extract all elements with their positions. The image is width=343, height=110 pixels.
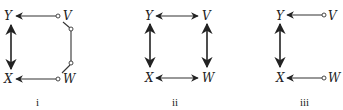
caption-i: i: [36, 96, 39, 108]
panel-ii: Y V X W ii: [144, 9, 216, 108]
caption-iii: iii: [300, 96, 309, 108]
node-x: X: [144, 71, 154, 85]
circle-mark: [56, 77, 60, 81]
circle-mark: [69, 61, 73, 65]
graph-diagram: Y V X W i Y V X W ii Y V X W: [0, 0, 343, 110]
node-v: V: [63, 9, 73, 23]
caption-ii: ii: [172, 96, 178, 108]
node-v: V: [202, 9, 212, 23]
node-x: X: [3, 72, 13, 86]
node-y: Y: [145, 9, 154, 23]
node-y: Y: [276, 9, 285, 23]
node-x: X: [275, 71, 285, 85]
circle-mark: [69, 27, 73, 31]
circle-mark: [322, 13, 326, 17]
circle-mark: [56, 14, 60, 18]
panel-i: Y V X W i: [3, 9, 77, 108]
node-w: W: [63, 72, 77, 86]
node-w: W: [328, 71, 342, 85]
circle-mark: [322, 76, 326, 80]
node-y: Y: [4, 9, 13, 23]
node-v: V: [328, 9, 338, 23]
node-w: W: [202, 71, 216, 85]
panel-iii: Y V X W iii: [275, 9, 342, 108]
